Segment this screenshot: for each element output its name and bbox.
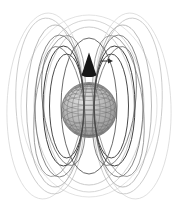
dipole-field-plot bbox=[0, 0, 177, 210]
sphere bbox=[62, 83, 117, 138]
dipole-field-figure bbox=[0, 0, 177, 210]
